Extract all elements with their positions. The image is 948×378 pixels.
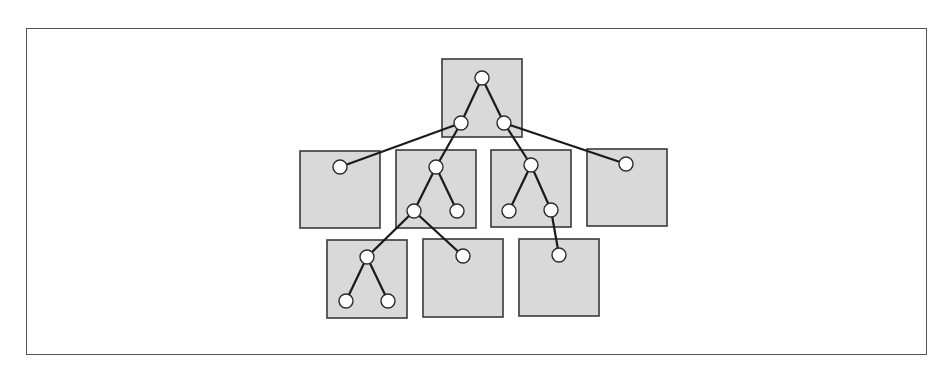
tree-node-n-root [475, 71, 489, 85]
tree-node-n-h [502, 204, 516, 218]
tree-node-n-c [333, 160, 347, 174]
tree-diagram [0, 0, 948, 378]
tree-node-n-o [552, 248, 566, 262]
tree-node-n-a [454, 116, 468, 130]
tree-node-n-n [456, 249, 470, 263]
tree-node-n-d [429, 160, 443, 174]
blocks-layer [300, 59, 667, 318]
tree-node-n-l [339, 294, 353, 308]
tree-node-n-e [407, 204, 421, 218]
tree-node-n-b [497, 116, 511, 130]
tree-node-n-g [524, 158, 538, 172]
tree-node-n-f [450, 204, 464, 218]
tree-node-n-m [381, 294, 395, 308]
tree-node-n-i [544, 203, 558, 217]
tree-node-n-k [360, 250, 374, 264]
tree-node-n-j [619, 157, 633, 171]
